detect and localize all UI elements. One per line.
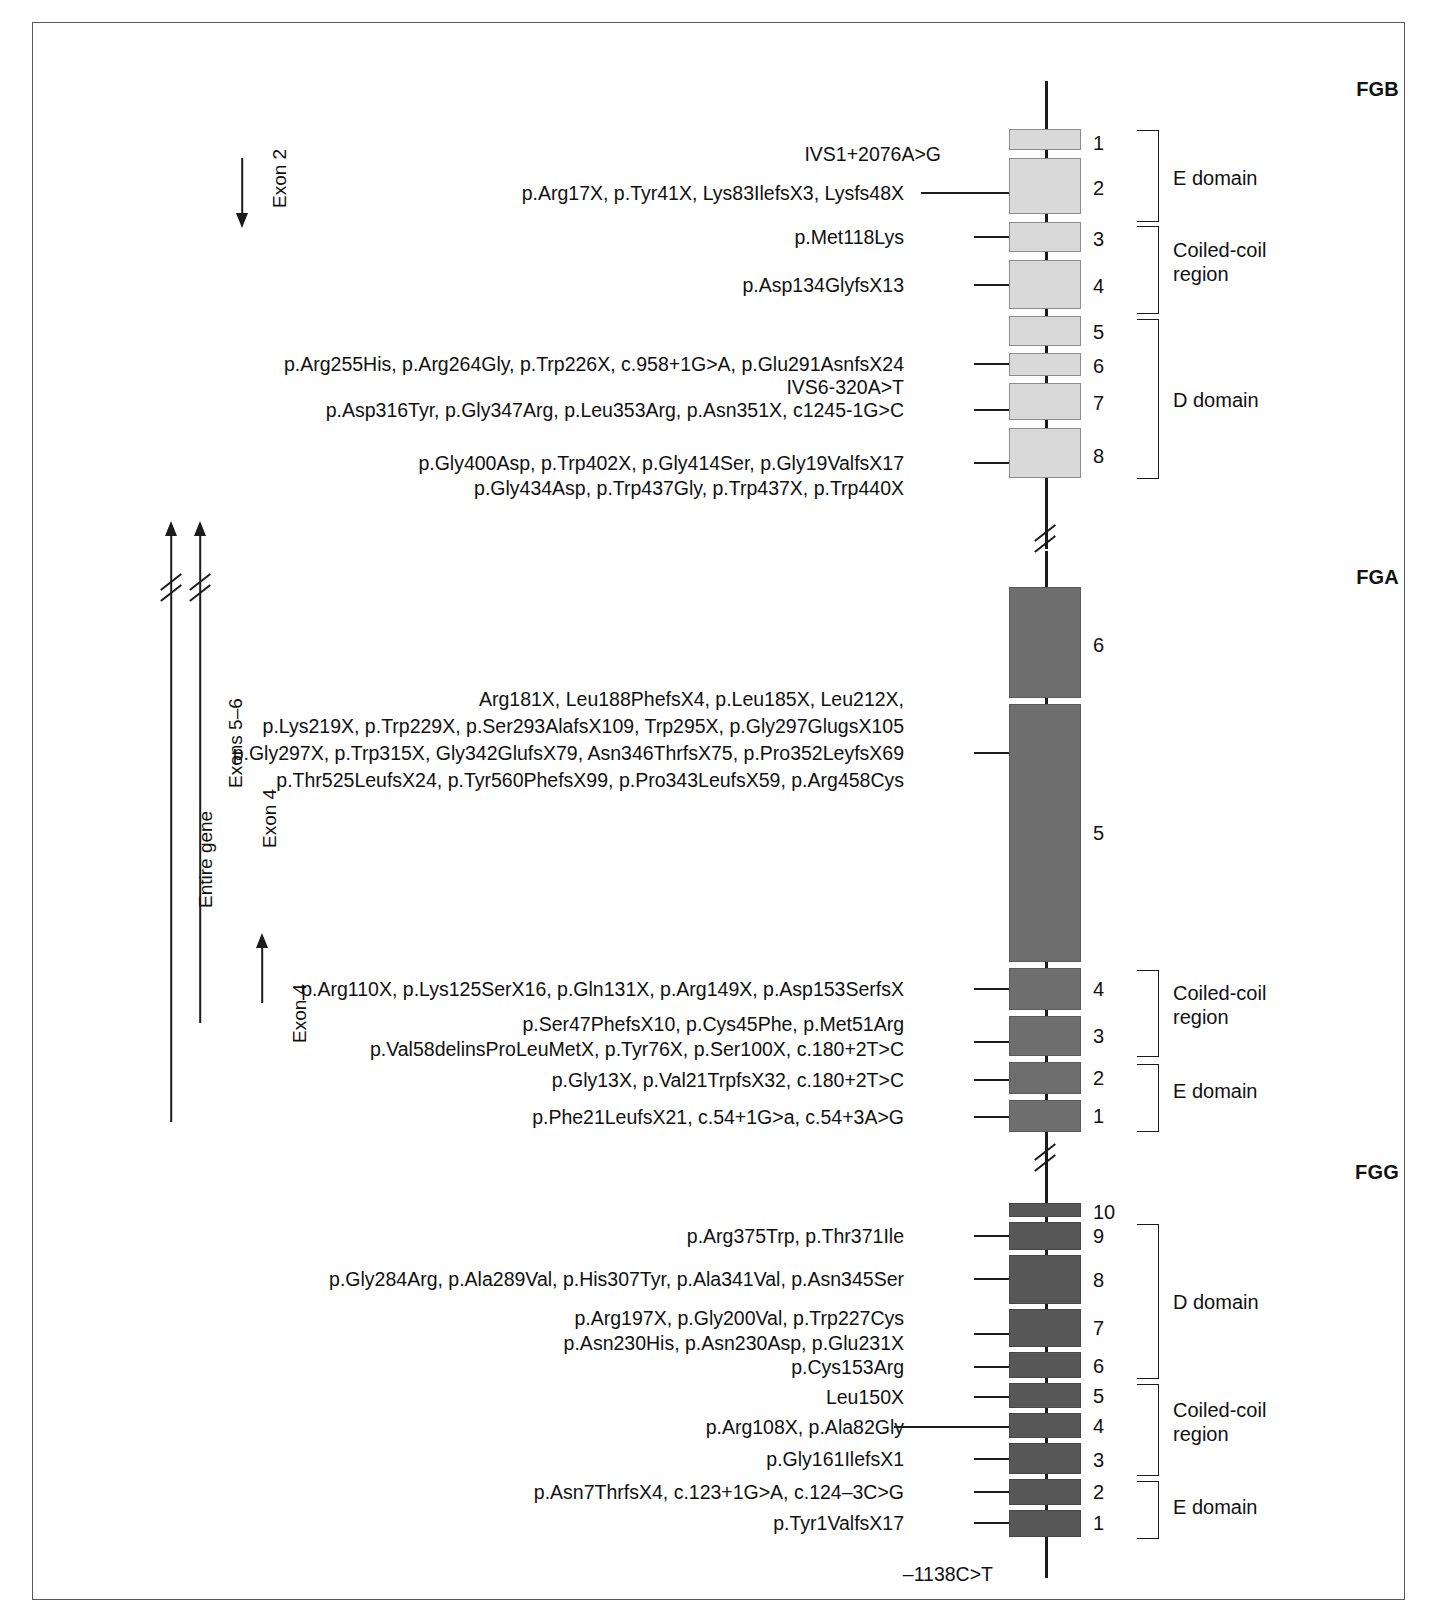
fgb-backbone-top <box>1045 81 1048 129</box>
leader-line-fgg-4 <box>894 1426 1009 1428</box>
leader-line-fgg-3 <box>974 1458 1009 1460</box>
mutation-label-fgg-4: p.Asn230His, p.Asn230Asp, p.Glu231X <box>564 1331 904 1356</box>
mutation-label-fga-6: p.Ser47PhefsX10, p.Cys45Phe, p.Met51Arg <box>522 1012 904 1037</box>
mutation-label-fgb-4: p.Asp134GlyfsX13 <box>742 273 904 298</box>
mutation-label-fgb-3: p.Met118Lys <box>795 225 904 250</box>
exon-box-fga-6 <box>1009 587 1081 698</box>
exon-box-fgg-9 <box>1009 1222 1081 1250</box>
arrow-exon-4-short <box>255 933 269 1003</box>
exon-box-fga-3 <box>1009 1016 1081 1056</box>
arrow-label-exons-5-6: Exons 5–6 <box>225 698 247 788</box>
mutation-label-fga-7: p.Val58delinsProLeuMetX, p.Tyr76X, p.Ser… <box>370 1037 904 1062</box>
leader-line-fgb-3 <box>974 236 1009 238</box>
exon-box-fgg-3 <box>1009 1443 1081 1474</box>
mutation-label-fgg-10: p.Tyr1ValfsX17 <box>773 1511 904 1536</box>
exon-box-fgg-8 <box>1009 1255 1081 1304</box>
break-mark-fgb-fga <box>1032 528 1060 552</box>
domain-label-fgb-d: D domain <box>1173 388 1259 412</box>
exon-number-fga-6: 6 <box>1093 635 1104 655</box>
exon-number-fgb-8: 8 <box>1093 446 1104 466</box>
leader-line-fgg-8 <box>974 1278 1009 1280</box>
mutation-label-fgg-1: p.Arg375Trp, p.Thr371Ile <box>687 1224 904 1249</box>
exon-box-fgb-4 <box>1009 260 1081 309</box>
exon-box-fgb-7 <box>1009 383 1081 420</box>
leader-line-fgb-5 <box>974 363 1009 365</box>
exon-number-fga-1: 1 <box>1093 1106 1104 1126</box>
leader-line-fga-exon2 <box>974 1079 1009 1081</box>
mutation-label-fga-2: p.Lys219X, p.Trp229X, p.Ser293AlafsX109,… <box>263 714 904 739</box>
exon-box-fga-1 <box>1009 1100 1081 1132</box>
exon-number-fgg-8: 8 <box>1093 1270 1104 1290</box>
leader-line-fga-exon4 <box>974 988 1009 990</box>
exon-number-fga-3: 3 <box>1093 1026 1104 1046</box>
mutation-label-fgg-3: p.Arg197X, p.Gly200Val, p.Trp227Cys <box>574 1306 904 1331</box>
exon-number-fgg-7: 7 <box>1093 1318 1104 1338</box>
fgg-backbone-top <box>1045 1169 1048 1203</box>
mutation-label-fgb-5: p.Arg255His, p.Arg264Gly, p.Trp226X, c.9… <box>284 352 904 377</box>
leader-line-fgg-5 <box>974 1396 1009 1398</box>
leader-line-fgg-1 <box>974 1522 1009 1524</box>
exon-box-fga-2 <box>1009 1062 1081 1094</box>
mutation-label-fga-5: p.Arg110X, p.Lys125SerX16, p.Gln131X, p.… <box>301 977 904 1002</box>
break-mark-fga-fgg <box>1032 1147 1060 1171</box>
domain-bracket-fgg-d <box>1137 1224 1159 1379</box>
exon-box-fgg-4 <box>1009 1413 1081 1438</box>
exon-box-fgg-2 <box>1009 1479 1081 1505</box>
exon-number-fgb-1: 1 <box>1093 133 1104 153</box>
mutation-label-fgb-8: p.Gly400Asp, p.Trp402X, p.Gly414Ser, p.G… <box>418 451 904 476</box>
exon-box-fgb-1 <box>1009 129 1081 150</box>
domain-bracket-fgb-d <box>1137 319 1159 479</box>
exon-number-fgb-6: 6 <box>1093 356 1104 376</box>
exon-number-fgb-4: 4 <box>1093 276 1104 296</box>
mutation-label-fgg-2: p.Gly284Arg, p.Ala289Val, p.His307Tyr, p… <box>329 1267 904 1292</box>
mutation-label-fgg-9: p.Asn7ThrfsX4, c.123+1G>A, c.124–3C>G <box>534 1480 904 1505</box>
leader-line-fgg-2 <box>974 1491 1009 1493</box>
exon-number-fga-2: 2 <box>1093 1068 1104 1088</box>
mutation-label-fgg-5: p.Cys153Arg <box>791 1355 904 1380</box>
mutation-label-fgg-7: p.Arg108X, p.Ala82Gly <box>706 1415 904 1440</box>
domain-label-fgb-e: E domain <box>1173 166 1258 190</box>
mutation-label-fgb-1: IVS1+2076A>G <box>804 142 941 167</box>
leader-line-fgb-7 <box>974 409 1009 411</box>
exon-number-fga-4: 4 <box>1093 979 1104 999</box>
exon-box-fgg-10 <box>1009 1203 1081 1217</box>
exon-number-fgg-1: 1 <box>1093 1513 1104 1533</box>
fga-backbone-top <box>1045 551 1048 587</box>
exon-number-fgg-2: 2 <box>1093 1482 1104 1502</box>
gene-title-fga: FGA <box>1356 566 1399 589</box>
exon-number-fgb-7: 7 <box>1093 393 1104 413</box>
mutation-label-fgg-8: p.Gly161IlefsX1 <box>766 1447 904 1472</box>
leader-line-fgb-4 <box>974 284 1009 286</box>
leader-line-fga-exon5 <box>974 752 1009 754</box>
exon-number-fgg-10: 10 <box>1093 1202 1115 1222</box>
break-mark-exons-5-6 <box>187 578 213 602</box>
exon-number-fgg-3: 3 <box>1093 1450 1104 1470</box>
exon-number-fgg-9: 9 <box>1093 1226 1104 1246</box>
arrow-label-exon-4-long: Exon 4 <box>259 789 281 848</box>
exon-box-fgb-8 <box>1009 428 1081 478</box>
leader-line-fgb-8 <box>974 462 1009 464</box>
exon-number-fga-5: 5 <box>1093 823 1104 843</box>
leader-line-fgg-7 <box>974 1333 1009 1335</box>
mutation-label-fga-4: p.Thr525LeufsX24, p.Tyr560PhefsX99, p.Pr… <box>276 768 904 793</box>
arrow-exon-2 <box>235 158 249 228</box>
exon-number-fgg-5: 5 <box>1093 1386 1104 1406</box>
domain-label-fgg-e: E domain <box>1173 1495 1258 1519</box>
exon-box-fgg-7 <box>1009 1309 1081 1347</box>
exon-box-fgg-1 <box>1009 1510 1081 1537</box>
mutation-label-fgb-9: p.Gly434Asp, p.Trp437Gly, p.Trp437X, p.T… <box>474 476 904 501</box>
figure-page: FGB 1 2 3 4 5 6 7 8 IVS1+2076A>G p.Arg17… <box>0 0 1437 1622</box>
arrow-label-exon-2: Exon 2 <box>269 149 291 208</box>
exon-box-fgg-5 <box>1009 1383 1081 1408</box>
mutation-label-fgb-7: p.Asp316Tyr, p.Gly347Arg, p.Leu353Arg, p… <box>326 398 904 423</box>
domain-bracket-fgb-coil <box>1137 226 1159 314</box>
break-mark-entire-gene <box>158 578 184 602</box>
mutation-label-fgb-2: p.Arg17X, p.Tyr41X, Lys83IlefsX3, Lysfs4… <box>522 181 904 206</box>
exon-box-fga-4 <box>1009 968 1081 1010</box>
leader-line-fga-exon3 <box>974 1041 1009 1043</box>
domain-bracket-fgg-coil <box>1137 1384 1159 1476</box>
domain-bracket-fga-coil <box>1137 970 1159 1057</box>
exon-number-fgg-6: 6 <box>1093 1356 1104 1376</box>
exon-box-fgb-3 <box>1009 222 1081 252</box>
gene-title-fgb: FGB <box>1356 78 1399 101</box>
